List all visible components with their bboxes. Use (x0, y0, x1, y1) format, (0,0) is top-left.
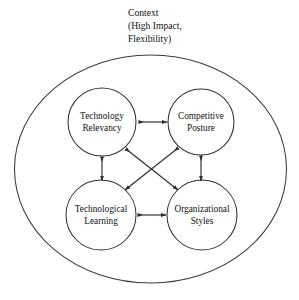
node-technology-relevancy[interactable]: Technology Relevancy (68, 88, 136, 156)
node-technology-relevancy-label-line-1: Technology (80, 111, 124, 121)
connector-group (102, 122, 201, 215)
context-label-line-1: Context (128, 7, 159, 18)
diagram-canvas: Context (High Impact, Flexibility) Techn… (0, 0, 299, 300)
node-organizational-styles-label-line-2: Styles (191, 216, 214, 226)
connector-technology-relevancy-organizational-styles (126, 149, 178, 190)
node-technological-learning[interactable]: Technological Learning (66, 180, 136, 250)
node-organizational-styles-label-line-1: Organizational (174, 204, 229, 214)
node-technology-relevancy-label-line-2: Relevancy (82, 123, 122, 133)
context-label-line-3: Flexibility) (128, 33, 171, 45)
node-technological-learning-label-line-1: Technological (75, 204, 128, 214)
node-technological-learning-label-line-2: Learning (84, 216, 118, 226)
context-label: Context (High Impact, Flexibility) (128, 7, 182, 45)
context-label-line-2: (High Impact, (128, 20, 182, 32)
framework-diagram: Context (High Impact, Flexibility) Techn… (0, 0, 299, 300)
node-competitive-posture[interactable]: Competitive Posture (168, 89, 234, 155)
node-competitive-posture-label-line-1: Competitive (178, 111, 224, 121)
node-organizational-styles-circle[interactable] (167, 180, 237, 250)
node-competitive-posture-circle[interactable] (168, 89, 234, 155)
node-organizational-styles[interactable]: Organizational Styles (167, 180, 237, 250)
node-technological-learning-circle[interactable] (66, 180, 136, 250)
node-technology-relevancy-circle[interactable] (68, 88, 136, 156)
node-competitive-posture-label-line-2: Posture (187, 123, 215, 133)
